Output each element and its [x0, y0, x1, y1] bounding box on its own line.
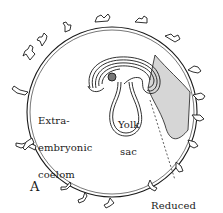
label-reduced-allantoic-lumen: Reduced allantoic lumen — [151, 183, 196, 213]
label-extra-embryonic-coelom: Extra- embryonic coelom — [38, 98, 92, 197]
label-yolk-sac: Yolk sac — [118, 102, 139, 174]
panel-label: A — [30, 180, 40, 193]
embryo-diagram: Extra- embryonic coelom Yolk sac Reduced… — [0, 0, 223, 213]
